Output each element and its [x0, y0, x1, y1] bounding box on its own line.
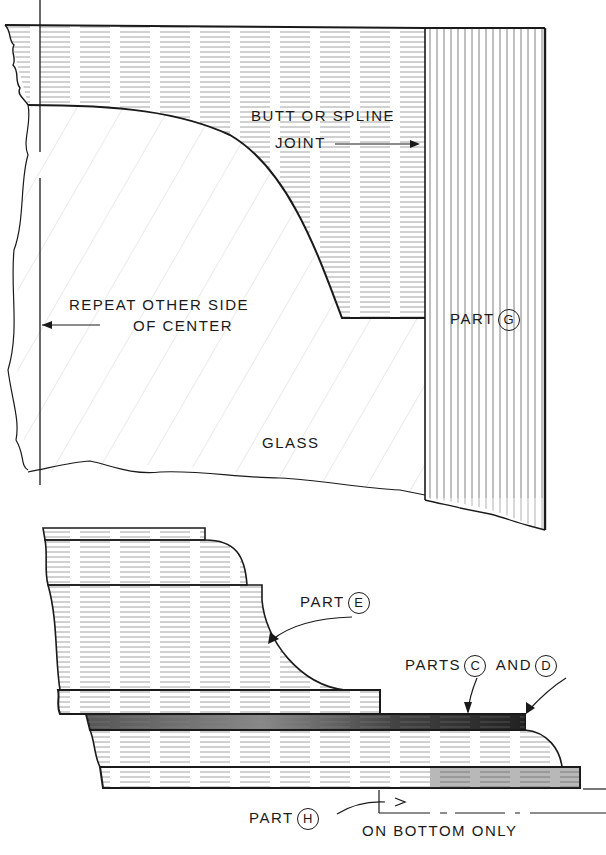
part-e-prefix: PART — [300, 593, 345, 610]
joint-label-line2: JOINT — [275, 134, 326, 151]
bottom-only-note: ON BOTTOM ONLY — [362, 822, 517, 839]
part-g-callout-circle: G — [498, 309, 520, 331]
parts-cd-prefix: PARTS — [405, 656, 461, 673]
part-g-prefix: PART — [450, 310, 495, 327]
part-g-label: PARTG — [450, 309, 520, 331]
part-e-label: PARTE — [300, 592, 370, 614]
part-h-prefix: PART — [249, 809, 294, 826]
part-h-label: PARTH — [249, 808, 319, 830]
parts-cd-label: PARTSC ANDD — [405, 655, 557, 677]
technical-drawing — [0, 0, 606, 855]
part-e-callout-circle: E — [348, 592, 370, 614]
part-d-callout-circle: D — [535, 655, 557, 677]
part-h-callout-circle: H — [297, 808, 319, 830]
part-c-callout-circle: C — [464, 655, 486, 677]
and-text: AND — [496, 656, 532, 673]
repeat-label-line2: OF CENTER — [133, 317, 233, 334]
glass-label: GLASS — [262, 434, 320, 451]
joint-label-line1: BUTT OR SPLINE — [251, 107, 395, 124]
repeat-label-line1: REPEAT OTHER SIDE — [69, 296, 249, 313]
